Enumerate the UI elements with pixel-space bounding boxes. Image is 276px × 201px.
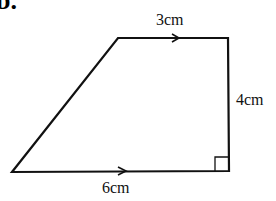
right-angle-icon xyxy=(215,157,229,171)
right-side-label: 4cm xyxy=(236,92,264,108)
trapezium-diagram: b. 3cm 4cm 6cm xyxy=(0,0,276,201)
trapezium-figure xyxy=(0,0,276,201)
bottom-side-label: 6cm xyxy=(102,180,130,196)
top-side-label: 3cm xyxy=(156,12,184,28)
trapezium-outline xyxy=(12,38,229,172)
